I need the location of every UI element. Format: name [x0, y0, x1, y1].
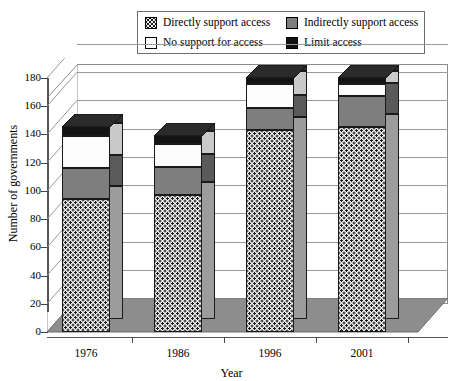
bar-top-face: [62, 114, 123, 127]
legend-item-directly-support: Directly support access: [145, 17, 270, 29]
bar-segment-front[interactable]: [62, 199, 110, 332]
x-axis-tick: [224, 337, 225, 343]
bar-segment-front[interactable]: [62, 136, 110, 168]
chart-plot-area: 020406080100120140160180 Number of gover…: [0, 58, 463, 353]
bar-top-face: [154, 123, 215, 136]
bar-segment-front[interactable]: [154, 144, 202, 167]
bar-top-face-shape: [246, 65, 307, 78]
dotted-swatch-icon: [145, 17, 157, 29]
gray-swatch-icon: [286, 17, 298, 29]
chart-legend: Directly support access Indirectly suppo…: [137, 11, 425, 54]
bar-segment-side: [202, 182, 215, 319]
legend-label-indirectly-support: Indirectly support access: [304, 17, 418, 29]
bar-top-face: [338, 65, 399, 78]
x-axis-tick: [316, 337, 317, 343]
legend-item-limit-access: Limit access: [286, 37, 362, 49]
x-axis-tick-label: 2001: [332, 347, 392, 359]
bar-segment-front[interactable]: [246, 84, 294, 108]
bar-top-face-shape: [62, 114, 123, 127]
bar-column[interactable]: [154, 58, 202, 332]
white-swatch-icon: [145, 37, 157, 49]
bar-segment-side: [110, 155, 123, 186]
bar-column[interactable]: [338, 58, 386, 332]
bar-segment-front[interactable]: [154, 167, 202, 195]
bar-segment-front[interactable]: [62, 127, 110, 135]
legend-row-1: Directly support access Indirectly suppo…: [138, 13, 424, 33]
bar-segment-side: [386, 83, 399, 114]
bar-segment-front[interactable]: [338, 84, 386, 97]
bar-segment-front[interactable]: [246, 108, 294, 131]
bar-top-face-shape: [338, 65, 399, 78]
y-axis-title: Number of governments: [6, 74, 21, 294]
bar-segment-side: [110, 186, 123, 319]
x-axis-tick-label: 1986: [148, 347, 208, 359]
x-axis-tick: [132, 337, 133, 343]
x-axis-line: [47, 337, 448, 338]
legend-row-2: No support for access Limit access: [138, 33, 424, 53]
bar-top-face-shape: [154, 123, 215, 136]
x-axis-tick: [408, 337, 409, 343]
bar-top-face: [246, 65, 307, 78]
x-axis-tick-label: 1976: [56, 347, 116, 359]
gridline: [77, 44, 448, 45]
legend-label-no-support: No support for access: [163, 37, 263, 49]
legend-label-directly-support: Directly support access: [163, 17, 270, 29]
bar-segment-front[interactable]: [338, 96, 386, 127]
bar-segment-front[interactable]: [338, 127, 386, 332]
bar-segment-side: [386, 114, 399, 319]
bar-segment-front[interactable]: [154, 195, 202, 332]
bar-segment-front[interactable]: [246, 130, 294, 332]
bar-segment-side: [294, 95, 307, 118]
black-swatch-icon: [286, 37, 298, 49]
bar-column[interactable]: [246, 58, 294, 332]
x-axis-title: Year: [0, 366, 463, 381]
bar-segment-front[interactable]: [62, 168, 110, 199]
legend-item-indirectly-support: Indirectly support access: [286, 17, 418, 29]
legend-label-limit-access: Limit access: [304, 37, 362, 49]
x-axis-tick-label: 1996: [240, 347, 300, 359]
bar-column[interactable]: [62, 58, 110, 332]
bar-segment-side: [202, 154, 215, 182]
bar-segment-side: [294, 117, 307, 319]
bar-segment-front[interactable]: [154, 136, 202, 144]
legend-item-no-support: No support for access: [145, 37, 263, 49]
